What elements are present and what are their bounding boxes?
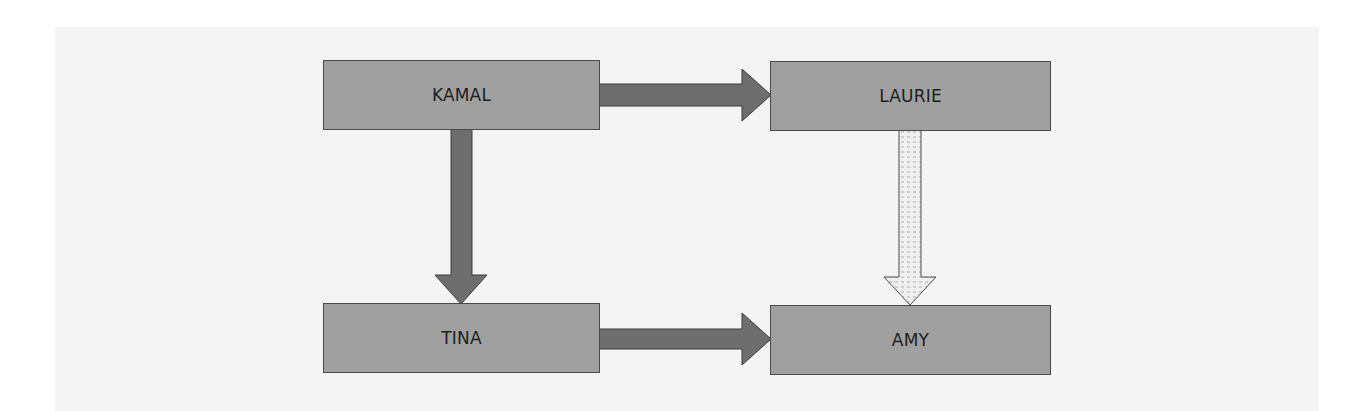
node-amy-label: AMY [892,330,929,350]
node-tina-label: TINA [441,328,482,348]
node-laurie: LAURIE [770,61,1051,131]
arrow-laurie-to-amy [884,130,936,305]
arrow-tina-to-amy [599,313,771,365]
arrow-kamal-to-laurie [599,69,771,121]
arrow-kamal-to-tina [435,129,487,304]
node-kamal: KAMAL [323,60,600,130]
node-amy: AMY [770,305,1051,375]
arrows-layer [0,0,1349,411]
node-laurie-label: LAURIE [879,86,942,106]
node-kamal-label: KAMAL [432,85,491,105]
node-tina: TINA [323,303,600,373]
